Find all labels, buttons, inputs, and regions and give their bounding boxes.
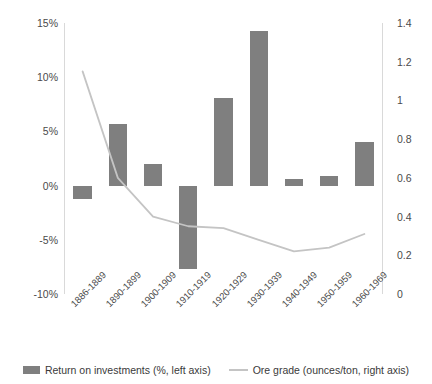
bar [285,179,303,186]
bar [144,164,162,186]
bar [109,124,127,186]
left-axis-tick-label: -5% [39,235,58,246]
chart-legend: Return on investments (%, left axis) Ore… [0,364,432,376]
left-axis-tick-label: 15% [37,18,58,29]
right-axis-line [382,23,383,294]
bar [250,31,268,186]
right-axis-tick-label: 0 [397,289,403,300]
legend-label-line: Ore grade (ounces/ton, right axis) [253,364,409,376]
left-axis-ticks: 15%10%5%0%-5%-10% [0,0,58,384]
right-axis-tick-label: 0.6 [397,173,412,184]
legend-item-line[interactable]: Ore grade (ounces/ton, right axis) [229,364,409,376]
right-axis-tick-label: 1.2 [397,56,412,67]
left-axis-tick-label: -10% [33,289,58,300]
right-axis-tick-label: 1.4 [397,18,412,29]
right-axis-tick-label: 0.8 [397,134,412,145]
line-swatch-icon [229,369,248,371]
left-axis-tick-label: 0% [43,180,58,191]
left-axis-tick-label: 5% [43,126,58,137]
bar [179,186,197,269]
right-axis-tick-label: 1 [397,95,403,106]
chart-container: 15%10%5%0%-5%-10% 1.41.210.80.60.40.20 1… [0,0,432,384]
right-axis-tick-label: 0.4 [397,211,412,222]
right-axis-tick-label: 0.2 [397,250,412,261]
plot-area [65,23,382,294]
legend-label-bars: Return on investments (%, left axis) [45,364,211,376]
bar-swatch-icon [23,366,40,374]
bar [320,176,338,186]
bar [355,142,373,185]
bar [73,186,91,199]
right-axis-ticks: 1.41.210.80.60.40.20 [389,0,432,384]
bar [214,98,232,186]
left-axis-tick-label: 10% [37,72,58,83]
legend-item-bars[interactable]: Return on investments (%, left axis) [23,364,211,376]
